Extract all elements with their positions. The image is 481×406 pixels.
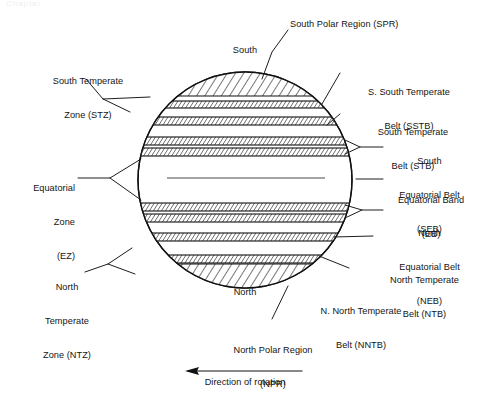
label-seb-line1: South: [378, 156, 481, 167]
band-spr: [130, 60, 360, 96]
band-stb: [130, 117, 360, 125]
rotation-caption: Direction of rotation: [175, 377, 315, 388]
label-npr-line1: North Polar Region: [193, 345, 353, 356]
planet-disc: [130, 60, 360, 304]
label-ntz-line3: Zone (NTZ): [8, 350, 126, 361]
leader-nntb: [319, 256, 349, 268]
leader-ez-upper: [78, 159, 141, 178]
label-ez: Equatorial Zone (EZ): [0, 161, 75, 284]
label-npr: North Polar Region (NPR): [193, 323, 353, 406]
label-stz-line2: Zone (STZ): [24, 110, 152, 121]
label-stz-line1: South Temperate: [24, 76, 152, 87]
label-ez-line2: Zone: [0, 217, 75, 228]
jupiter-belt-zone-diagram: Chapter: [0, 0, 481, 406]
label-stz: South Temperate Zone (STZ): [24, 54, 152, 144]
label-sstb-line1: S. South Temperate: [337, 87, 481, 98]
label-ntz-line2: Temperate: [8, 316, 126, 327]
pole-label-north: North: [195, 287, 295, 298]
label-eb-line1: Equatorial Band: [381, 195, 481, 206]
label-ez-line3: (EZ): [0, 251, 75, 262]
label-ez-line1: Equatorial: [0, 183, 75, 194]
band-sstb: [130, 101, 360, 108]
label-nntb-line1: N. North Temperate: [296, 306, 426, 317]
label-neb-line1: North: [378, 228, 481, 239]
band-ntb: [130, 233, 360, 241]
label-spr: South Polar Region (SPR): [290, 19, 480, 30]
pole-label-south: South: [195, 45, 295, 56]
leader-ez-lower: [110, 178, 141, 200]
leader-ntb: [334, 236, 373, 237]
